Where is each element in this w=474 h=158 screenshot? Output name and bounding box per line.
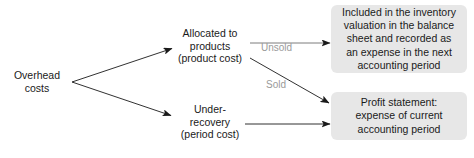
edge-label-sold: Sold <box>266 79 286 91</box>
node-allocated-to-products: Allocated to products (product cost) <box>154 27 266 65</box>
inventory-line-4: an expense in the next <box>342 46 456 59</box>
node-overhead-costs: Overhead costs <box>0 69 74 94</box>
profit-line-3: accounting period <box>356 123 443 136</box>
overhead-costs-line-2: costs <box>0 82 74 95</box>
inventory-line-1: Included in the inventory <box>342 6 456 19</box>
node-under-recovery: Under- recovery (period cost) <box>154 103 266 141</box>
under-recovery-line-3: (period cost) <box>154 128 266 141</box>
edge-label-unsold: Unsold <box>261 42 292 54</box>
inventory-valuation-box: Included in the inventory valuation in t… <box>331 5 467 73</box>
under-recovery-line-1: Under- <box>154 103 266 116</box>
profit-statement-box: Profit statement: expense of current acc… <box>331 92 467 140</box>
allocated-line-1: Allocated to <box>154 27 266 40</box>
allocated-line-3: (product cost) <box>154 52 266 65</box>
diagram-canvas: Overhead costs Allocated to products (pr… <box>0 0 474 158</box>
profit-statement-text: Profit statement: expense of current acc… <box>356 96 443 136</box>
allocated-line-2: products <box>154 40 266 53</box>
profit-line-1: Profit statement: <box>356 96 443 109</box>
inventory-line-3: sheet and recorded as <box>342 32 456 45</box>
overhead-costs-line-1: Overhead <box>0 69 74 82</box>
inventory-line-5: accounting period <box>342 59 456 72</box>
under-recovery-line-2: recovery <box>154 116 266 129</box>
inventory-valuation-text: Included in the inventory valuation in t… <box>342 6 456 72</box>
profit-line-2: expense of current <box>356 109 443 122</box>
inventory-line-2: valuation in the balance <box>342 19 456 32</box>
